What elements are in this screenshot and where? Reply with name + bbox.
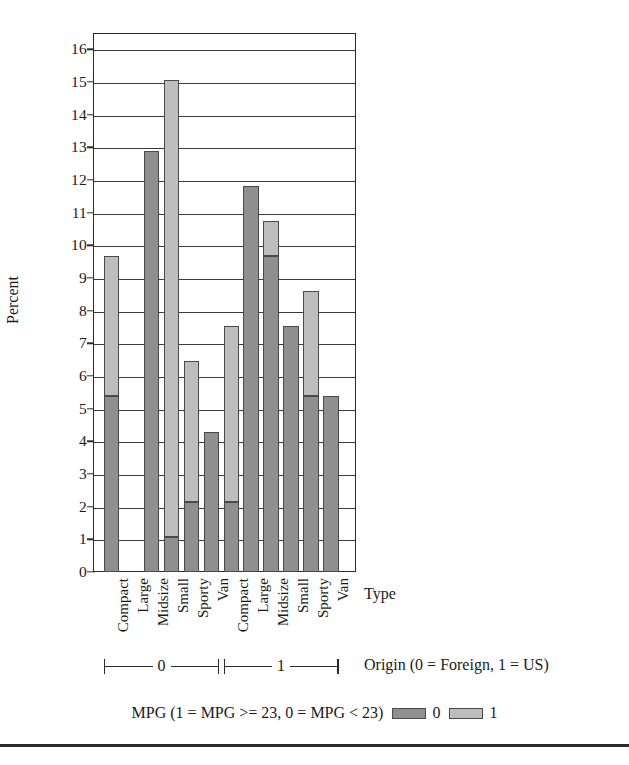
legend-swatch-0-icon (392, 708, 426, 719)
origin-bracket-0: 0 (104, 655, 219, 677)
bar-segment-series-0 (144, 151, 160, 572)
x-tick-label-van: Van (216, 578, 231, 601)
y-tick-label: 10 (47, 238, 87, 254)
bracket-cap-right (218, 659, 219, 674)
bar-segment-series-0 (303, 396, 319, 572)
y-tick-label: 7 (47, 336, 87, 352)
y-axis: 012345678910111213141516 (40, 33, 95, 572)
legend-title: MPG (1 = MPG >= 23, 0 = MPG < 23) (132, 704, 384, 722)
bar-segment-series-1 (303, 291, 319, 397)
x-tick-label-compact: Compact (116, 578, 131, 632)
y-tick-label: 4 (47, 434, 87, 450)
y-tick-label: 5 (47, 401, 87, 417)
legend-item-1: 1 (449, 704, 497, 722)
origin-group-label-0: 0 (153, 655, 171, 677)
bottom-divider (0, 744, 629, 747)
bar-0-compact (104, 256, 120, 572)
bar-0-sporty (184, 361, 200, 572)
bar-segment-series-0 (204, 432, 220, 572)
y-tick-label: 16 (47, 42, 87, 58)
category-labels: CompactLargeMidsizeSmallSportyVanCompact… (93, 578, 356, 650)
origin-group-label-1: 1 (272, 655, 290, 677)
stacked-bar-chart-figure: 012345678910111213141516 Percent Compact… (0, 0, 629, 765)
y-tick-label: 1 (47, 532, 87, 548)
bar-segment-series-1 (184, 361, 200, 501)
x-tick-label-small: Small (296, 578, 311, 613)
bar-1-sporty (303, 291, 319, 572)
bar-segment-series-1 (164, 80, 180, 537)
bar-segment-series-0 (263, 256, 279, 572)
y-tick-label: 14 (47, 107, 87, 123)
bar-segment-series-0 (104, 396, 120, 572)
y-tick-label: 3 (47, 466, 87, 482)
y-tick-label: 11 (47, 205, 87, 221)
bar-segment-series-0 (323, 396, 339, 572)
legend-label-1: 1 (489, 704, 497, 722)
legend-item-0: 0 (392, 704, 440, 722)
bar-1-compact (224, 326, 240, 572)
bar-1-large (243, 186, 259, 572)
origin-bracket-1: 1 (224, 655, 339, 677)
origin-group-brackets: 01 (93, 655, 356, 681)
bars-layer (93, 33, 356, 572)
x-tick-label-midsize: Midsize (156, 578, 171, 626)
y-tick-label: 2 (47, 499, 87, 515)
origin-axis-title: Origin (0 = Foreign, 1 = US) (364, 656, 549, 674)
bracket-cap-right (337, 659, 338, 674)
legend-swatch-1-icon (449, 708, 483, 719)
x-axis-title: Type (364, 585, 396, 603)
x-tick-label-large: Large (256, 578, 271, 613)
bar-segment-series-1 (224, 326, 240, 502)
bar-segment-series-0 (283, 326, 299, 572)
x-tick-label-midsize: Midsize (276, 578, 291, 626)
x-tick-label-sporty: Sporty (316, 578, 331, 618)
bar-0-small (164, 80, 180, 572)
bar-segment-series-1 (104, 256, 120, 396)
x-tick-label-compact: Compact (236, 578, 251, 632)
bar-segment-series-0 (224, 502, 240, 572)
y-tick-label: 12 (47, 172, 87, 188)
bar-segment-series-0 (184, 502, 200, 572)
legend-label-0: 0 (432, 704, 440, 722)
x-tick-label-van: Van (336, 578, 351, 601)
y-tick-label: 6 (47, 368, 87, 384)
bar-1-van (323, 396, 339, 572)
x-tick-label-large: Large (136, 578, 151, 613)
y-tick-label: 0 (47, 564, 87, 580)
x-tick-label-sporty: Sporty (196, 578, 211, 618)
y-axis-title: Percent (4, 276, 22, 324)
bar-segment-series-0 (164, 537, 180, 572)
legend: MPG (1 = MPG >= 23, 0 = MPG < 23) 0 1 (0, 700, 629, 726)
y-tick-label: 9 (47, 270, 87, 286)
bar-1-midsize (263, 221, 279, 572)
bar-segment-series-1 (263, 221, 279, 256)
y-tick-label: 15 (47, 74, 87, 90)
bar-0-van (204, 432, 220, 572)
bracket-cap-left (224, 659, 225, 674)
bracket-cap-left (104, 659, 105, 674)
bar-segment-series-0 (243, 186, 259, 572)
y-tick-label: 13 (47, 140, 87, 156)
x-tick-label-small: Small (176, 578, 191, 613)
y-tick-label: 8 (47, 303, 87, 319)
bar-0-midsize (144, 151, 160, 572)
bar-1-small (283, 326, 299, 572)
